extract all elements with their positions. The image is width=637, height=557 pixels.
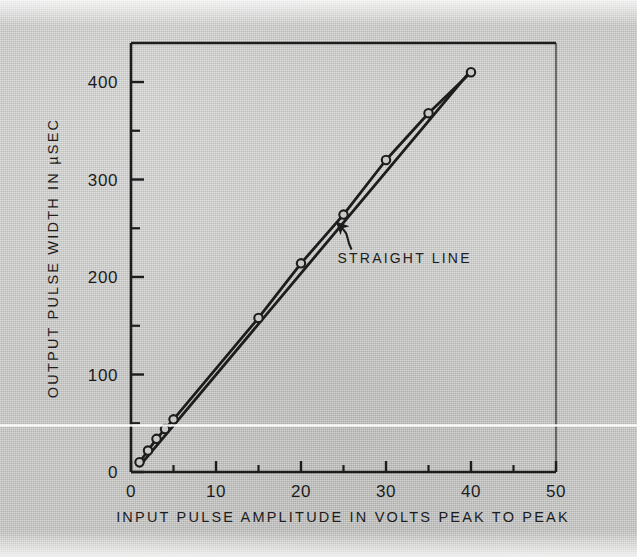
data-point-marker	[161, 425, 169, 433]
x-tick-label: 20	[291, 482, 311, 501]
data-point-marker	[467, 68, 475, 76]
x-tick-label: 30	[376, 482, 396, 501]
straight-line-callout: STRAIGHT LINE	[337, 222, 472, 266]
y-axis-title: OUTPUT PULSE WIDTH IN µSEC	[45, 118, 61, 398]
y-tick-label: 0	[108, 463, 118, 482]
data-point-marker	[152, 435, 160, 443]
data-point-marker	[169, 415, 177, 423]
y-tick-label: 200	[88, 268, 118, 287]
data-point-marker	[297, 259, 305, 267]
x-axis-title: INPUT PULSE AMPLITUDE IN VOLTS PEAK TO P…	[116, 509, 570, 525]
data-point-marker	[254, 314, 262, 322]
data-point-marker	[135, 458, 143, 466]
figure-page: 01020304050 0100200300400 STRAIGHT LINE …	[0, 0, 637, 557]
x-tick-label: 40	[461, 482, 481, 501]
data-point-marker	[382, 156, 390, 164]
x-axis-tick-labels: 01020304050	[126, 482, 566, 501]
x-tick-label: 50	[546, 482, 566, 501]
y-tick-label: 400	[88, 73, 118, 92]
y-axis-tick-labels: 0100200300400	[88, 73, 118, 482]
y-tick-label: 300	[88, 171, 118, 190]
data-point-marker	[144, 446, 152, 454]
y-tick-label: 100	[88, 366, 118, 385]
x-tick-label: 0	[126, 482, 136, 501]
x-tick-label: 10	[206, 482, 226, 501]
chart-figure: 01020304050 0100200300400 STRAIGHT LINE …	[0, 0, 637, 557]
y-axis-major-ticks	[131, 82, 144, 472]
straight-line-callout-label: STRAIGHT LINE	[338, 250, 472, 266]
data-point-marker	[339, 210, 347, 218]
data-point-marker	[424, 109, 432, 117]
series-straight-line	[140, 70, 472, 466]
